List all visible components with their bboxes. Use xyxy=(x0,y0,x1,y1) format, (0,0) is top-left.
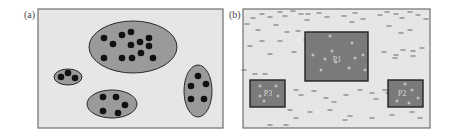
panel-a-cluster-diagram xyxy=(38,9,223,128)
region-label-p3: P3 xyxy=(264,89,272,98)
cluster-point xyxy=(188,83,195,90)
cluster-point xyxy=(138,50,145,57)
cluster-point xyxy=(100,94,107,101)
cluster-point xyxy=(129,55,136,62)
cluster-point xyxy=(146,43,153,50)
cluster-point xyxy=(203,81,210,88)
cluster-point xyxy=(146,35,153,42)
cluster-point xyxy=(119,55,126,62)
cluster-point xyxy=(188,96,195,103)
cluster-point xyxy=(119,32,126,39)
cluster-ellipse-3 xyxy=(87,90,137,118)
region-label-p2: P2 xyxy=(398,89,406,98)
cluster-point xyxy=(72,75,79,82)
cluster-point xyxy=(201,96,208,103)
cluster-point xyxy=(65,70,72,77)
region-label-p1: P1 xyxy=(333,55,341,64)
cluster-point xyxy=(122,102,129,109)
cluster-point xyxy=(101,55,108,62)
cluster-point xyxy=(128,42,135,49)
cluster-point xyxy=(195,73,202,80)
cluster-point xyxy=(101,35,108,42)
cluster-point xyxy=(150,55,157,62)
cluster-point xyxy=(100,108,107,115)
cluster-point xyxy=(137,39,144,46)
cluster-point xyxy=(58,74,65,81)
cluster-point xyxy=(128,29,135,36)
cluster-point xyxy=(113,94,120,101)
cluster-point xyxy=(110,41,117,48)
figure-canvas: P1P3P2 xyxy=(0,0,451,137)
cluster-point xyxy=(115,110,122,117)
panel-b-region-diagram: P1P3P2 xyxy=(242,9,431,128)
